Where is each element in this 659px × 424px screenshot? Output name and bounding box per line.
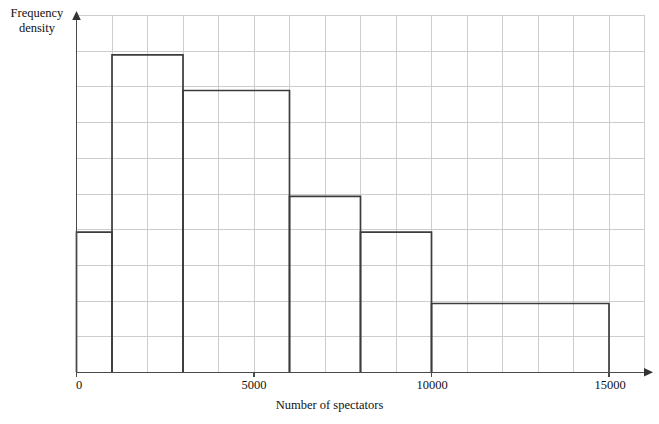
plot-area bbox=[0, 0, 659, 424]
histogram-figure: Frequencydensity bbox=[0, 0, 659, 424]
bar-0-1000 bbox=[77, 232, 113, 372]
histogram-bars bbox=[77, 55, 610, 372]
x-tick-label-10000: 10000 bbox=[402, 378, 462, 393]
x-axis-title: Number of spectators bbox=[0, 398, 659, 413]
bar-10000-15000 bbox=[432, 304, 610, 373]
x-tick-label-15000: 15000 bbox=[580, 378, 640, 393]
x-tick-label-0: 0 bbox=[49, 378, 109, 393]
x-axis bbox=[76, 368, 653, 377]
y-axis bbox=[72, 11, 81, 372]
x-tick-label-5000: 5000 bbox=[224, 378, 284, 393]
x-axis-arrow-icon bbox=[644, 368, 653, 377]
bar-3000-6000 bbox=[183, 91, 290, 373]
